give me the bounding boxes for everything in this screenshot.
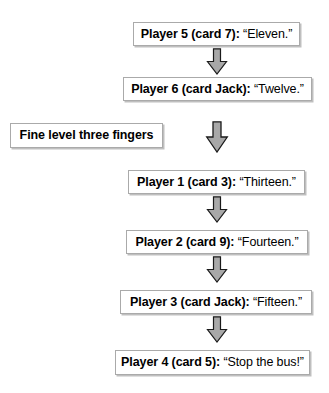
- node-speech: “Fourteen.”: [238, 235, 299, 249]
- node-speaker: Player 4 (card 5):: [121, 355, 220, 369]
- node-speech: “Fifteen.”: [253, 295, 302, 309]
- node-speech: “Thirteen.”: [239, 175, 296, 189]
- arrow-player6-to-player1: [205, 121, 229, 153]
- node-speaker: Player 2 (card 9):: [135, 235, 234, 249]
- node-player-3: Player 3 (card Jack): “Fifteen.”: [120, 290, 312, 314]
- arrow-player5-to-player6: [206, 48, 228, 75]
- arrow-player2-to-player3: [206, 256, 228, 283]
- node-player-5: Player 5 (card 7): “Eleven.”: [133, 22, 300, 46]
- node-label: Player 6 (card Jack): “Twelve.”: [131, 83, 304, 96]
- node-label: Player 2 (card 9): “Fourteen.”: [135, 236, 298, 249]
- node-speaker: Player 6 (card Jack):: [131, 82, 251, 96]
- node-speaker: Player 5 (card 7):: [141, 27, 240, 41]
- node-player-2: Player 2 (card 9): “Fourteen.”: [126, 230, 308, 254]
- node-label: Player 5 (card 7): “Eleven.”: [141, 28, 292, 41]
- node-player-4: Player 4 (card 5): “Stop the bus!”: [115, 350, 310, 375]
- arrow-player1-to-player2: [206, 196, 228, 223]
- node-speech: “Eleven.”: [243, 27, 292, 41]
- node-speaker: Player 1 (card 3):: [137, 175, 236, 189]
- node-label: Player 1 (card 3): “Thirteen.”: [137, 176, 296, 189]
- node-speaker: Player 3 (card Jack):: [130, 295, 250, 309]
- node-player-1: Player 1 (card 3): “Thirteen.”: [128, 170, 305, 194]
- side-note-box: Fine level three fingers: [10, 123, 163, 148]
- flowchart-canvas: Player 5 (card 7): “Eleven.” Player 6 (c…: [0, 0, 329, 393]
- node-label: Player 3 (card Jack): “Fifteen.”: [130, 296, 302, 309]
- node-speech: “Stop the bus!”: [223, 355, 304, 369]
- arrow-player3-to-player4: [206, 316, 228, 343]
- node-player-6: Player 6 (card Jack): “Twelve.”: [123, 77, 312, 101]
- side-note-label: Fine level three fingers: [20, 129, 154, 142]
- node-speech: “Twelve.”: [254, 82, 304, 96]
- node-label: Player 4 (card 5): “Stop the bus!”: [121, 356, 304, 369]
